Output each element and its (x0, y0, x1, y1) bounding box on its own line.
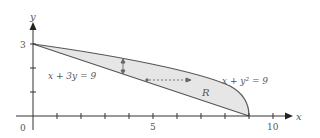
x-axis-label: x (296, 111, 302, 122)
diagram-svg: 0 5 10 3 x y x + 3y = 9 x + y² = 9 R (0, 0, 320, 138)
x-axis-arrow-icon (285, 113, 293, 120)
region-label: R (201, 87, 210, 98)
x-tick-label-5: 5 (150, 122, 156, 132)
line-equation-label: x + 3y = 9 (48, 71, 96, 81)
x-tick-label-10: 10 (267, 122, 279, 132)
y-axis-arrow-icon (30, 22, 37, 30)
parabola-equation-label: x + y² = 9 (222, 76, 268, 86)
y-tick-label-3: 3 (20, 40, 26, 50)
y-axis-label: y (29, 11, 36, 22)
region-diagram: 0 5 10 3 x y x + 3y = 9 x + y² = 9 R (0, 0, 320, 138)
origin-label: 0 (20, 123, 26, 133)
